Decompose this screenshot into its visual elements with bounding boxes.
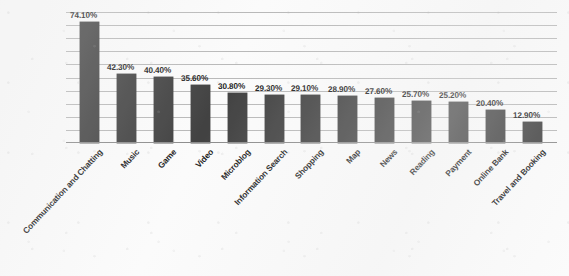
bar (117, 74, 136, 143)
category-label: Video (193, 147, 215, 170)
bar (228, 93, 247, 143)
bar (449, 102, 468, 143)
bar (265, 95, 284, 143)
category-label: Payment (443, 147, 473, 178)
gridline (66, 78, 557, 79)
bar-value-label: 12.90% (513, 111, 540, 120)
category-label: Online Bank (471, 147, 510, 188)
gridline (66, 25, 557, 26)
category-label: Game (155, 147, 178, 170)
bar-value-label: 27.60% (365, 87, 392, 96)
x-axis-line (66, 142, 557, 143)
gridline (66, 64, 557, 65)
bar (375, 98, 394, 143)
bar-value-label: 40.40% (144, 66, 171, 75)
bar (191, 85, 210, 143)
bar-value-label: 29.10% (291, 84, 318, 93)
bar-value-label: 28.90% (328, 84, 355, 93)
bar (486, 110, 505, 143)
bar-value-label: 30.80% (217, 81, 244, 90)
category-label: News (378, 147, 400, 169)
category-label: Communication and Chatting (21, 147, 105, 236)
bar-value-label: 74.10% (70, 10, 97, 19)
bar (412, 101, 431, 143)
gridline (66, 38, 557, 39)
gridline (66, 12, 557, 13)
bar-value-label: 20.40% (476, 98, 503, 107)
category-label: Reading (407, 147, 436, 177)
category-label: Shopping (293, 147, 326, 181)
bar (523, 122, 542, 143)
bar-chart: 74.10%42.30%40.40%35.60%30.80%29.30%29.1… (0, 0, 569, 276)
category-label: Microblog (218, 147, 251, 182)
category-label: Music (118, 147, 141, 170)
bar-value-label: 25.20% (439, 90, 466, 99)
bar-value-label: 29.30% (254, 84, 281, 93)
bar (154, 77, 173, 143)
bar-value-label: 42.30% (107, 62, 134, 71)
bar (80, 22, 99, 143)
bar (338, 96, 357, 143)
category-label: Map (344, 147, 362, 166)
bar-value-label: 25.70% (402, 90, 429, 99)
bar-value-label: 35.60% (181, 73, 208, 82)
gridline (66, 51, 557, 52)
plot-area (66, 12, 557, 143)
bar (301, 95, 320, 143)
